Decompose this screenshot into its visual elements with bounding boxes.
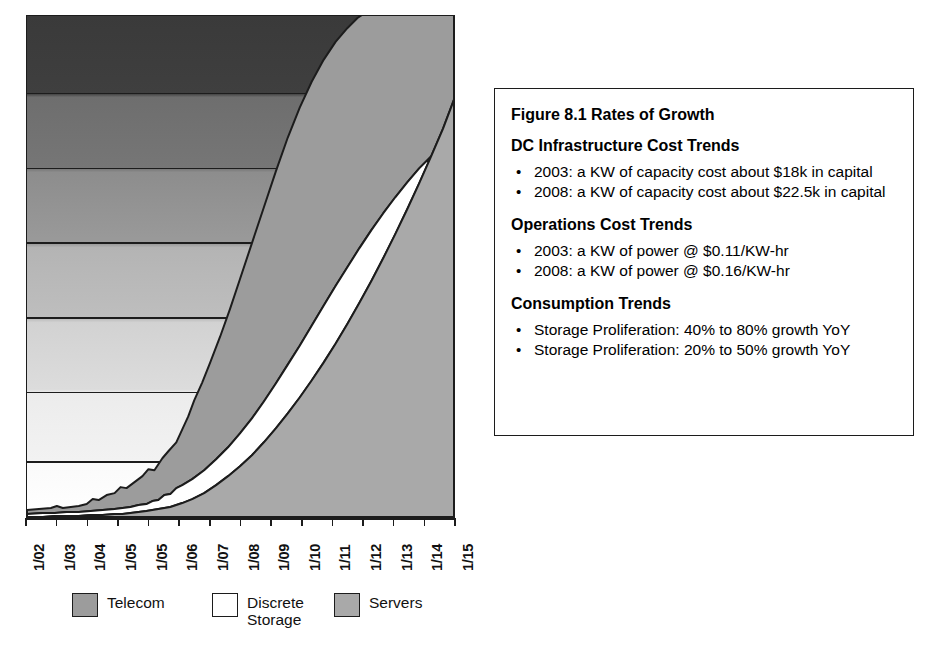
x-axis-tick [270,518,272,526]
x-axis-tick-label: 1/14 [429,544,445,571]
x-axis-tick [25,518,27,526]
x-axis-tick-label: 1/05 [154,544,170,571]
x-axis-tick [87,518,89,526]
legend-entry-telecom[interactable]: Telecom [72,592,165,617]
figure-caption-box: Figure 8.1 Rates of Growth DC Infrastruc… [494,88,914,436]
x-axis-tick [178,518,180,526]
x-axis-tick-label: 1/13 [399,544,415,571]
x-axis-tick [209,518,211,526]
bullet-text: 2003: a KW of power @ $0.11/KW-hr [534,242,789,259]
bullet-item: •2008: a KW of power @ $0.16/KW-hr [511,261,895,280]
section-bullet-list: •2003: a KW of capacity cost about $18k … [511,162,895,201]
x-axis-tick-label: 1/02 [31,544,47,571]
bullet-dot-icon: • [516,340,521,359]
bullet-dot-icon: • [516,320,521,339]
legend-swatch-icon [212,593,238,617]
x-axis-tick-label: 1/12 [368,544,384,571]
bullet-item: •2003: a KW of power @ $0.11/KW-hr [511,241,895,260]
x-axis-tick-label: 1/07 [215,544,231,571]
bullet-text: Storage Proliferation: 40% to 80% growth… [534,321,850,338]
bullet-text: 2008: a KW of power @ $0.16/KW-hr [534,262,790,279]
bullet-text: 2008: a KW of capacity cost about $22.5k… [534,183,886,200]
legend-swatch-icon [334,593,360,617]
bullet-item: •Storage Proliferation: 40% to 80% growt… [511,320,895,339]
bullet-text: Storage Proliferation: 20% to 50% growth… [534,341,850,358]
chart-legend: Telecom Discrete Storage Servers [72,592,452,642]
x-axis-tick [301,518,303,526]
x-axis-tick [424,518,426,526]
x-axis-tick-label: 1/11 [337,545,353,571]
x-axis-tick-label: 1/06 [184,544,200,571]
bullet-item: •2008: a KW of capacity cost about $22.5… [511,182,895,201]
chart-series-svg [27,16,454,517]
chart-x-axis [26,518,455,528]
bullet-dot-icon: • [516,162,521,181]
chart-plot-area [26,15,455,518]
bullet-dot-icon: • [516,182,521,201]
x-axis-tick [393,518,395,526]
section-heading: Operations Cost Trends [511,215,895,234]
x-axis-tick [332,518,334,526]
legend-swatch-icon [72,593,98,617]
section-bullet-list: •Storage Proliferation: 40% to 80% growt… [511,320,895,359]
x-axis-tick [148,518,150,526]
x-axis-tick-label: 1/10 [307,544,323,571]
figure-title: Figure 8.1 Rates of Growth [511,105,895,124]
x-axis-tick-label: 1/03 [62,544,78,571]
x-axis-tick [240,518,242,526]
section-bullet-list: •2003: a KW of power @ $0.11/KW-hr•2008:… [511,241,895,280]
legend-label: Servers [369,592,422,611]
x-axis-tick-label: 1/09 [276,544,292,571]
section-heading: Consumption Trends [511,294,895,313]
chart-x-tick-labels: 1/021/031/041/051/051/061/071/081/091/10… [26,528,455,574]
figure-section: DC Infrastructure Cost Trends•2003: a KW… [511,136,895,201]
x-axis-tick-label: 1/08 [246,544,262,571]
bullet-dot-icon: • [516,241,521,260]
x-axis-tick-label: 1/05 [123,544,139,571]
bullet-text: 2003: a KW of capacity cost about $18k i… [534,163,873,180]
x-axis-tick [454,518,456,526]
x-axis-tick [56,518,58,526]
figure-section: Operations Cost Trends•2003: a KW of pow… [511,215,895,280]
legend-entry-discrete-storage[interactable]: Discrete Storage [212,592,304,628]
bullet-item: •2003: a KW of capacity cost about $18k … [511,162,895,181]
x-axis-tick [117,518,119,526]
legend-entry-servers[interactable]: Servers [334,592,422,617]
x-axis-tick [362,518,364,526]
bullet-item: •Storage Proliferation: 20% to 50% growt… [511,340,895,359]
bullet-dot-icon: • [516,261,521,280]
figure-sections: DC Infrastructure Cost Trends•2003: a KW… [511,136,895,359]
section-heading: DC Infrastructure Cost Trends [511,136,895,155]
legend-label: Telecom [107,592,165,611]
legend-label: Discrete Storage [247,592,304,628]
figure-section: Consumption Trends•Storage Proliferation… [511,294,895,359]
x-axis-tick-label: 1/15 [460,544,476,571]
x-axis-tick-label: 1/04 [92,544,108,571]
stacked-area-chart-figure: 1/021/031/041/051/051/061/071/081/091/10… [0,0,470,656]
